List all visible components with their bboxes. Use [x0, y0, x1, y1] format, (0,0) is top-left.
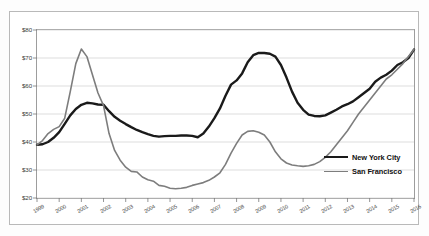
- legend-swatch-new-york-city: [324, 156, 348, 158]
- legend-item-san-francisco: San Francisco: [324, 164, 420, 178]
- legend-swatch-san-francisco: [324, 171, 348, 172]
- legend-item-new-york-city: New York City: [324, 150, 420, 164]
- chart-legend: New York City San Francisco: [324, 150, 420, 180]
- y-axis-tick-label: $20: [6, 194, 32, 201]
- legend-label-new-york-city: New York City: [352, 153, 400, 162]
- chart-container: $20$30$40$50$60$70$80 199920002001200220…: [0, 0, 429, 236]
- y-axis-tick-label: $60: [6, 82, 32, 89]
- y-axis-tick-label: $70: [6, 54, 32, 61]
- y-axis-tick-label: $40: [6, 138, 32, 145]
- chart-canvas: [0, 0, 429, 236]
- legend-label-san-francisco: San Francisco: [352, 167, 402, 176]
- y-axis-tick-label: $50: [6, 110, 32, 117]
- y-axis-tick-label: $80: [6, 26, 32, 33]
- series-line-new-york-city: [37, 50, 414, 145]
- y-axis-tick-label: $30: [6, 166, 32, 173]
